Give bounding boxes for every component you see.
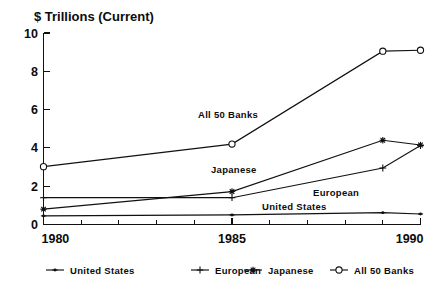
series-annotation: Japanese (211, 164, 257, 175)
star-marker (42, 208, 44, 210)
data-point (380, 137, 386, 143)
x-tick-label: 1980 (42, 232, 70, 246)
data-point (417, 47, 423, 53)
open-diamond-marker (380, 48, 386, 54)
open-diamond-marker (40, 164, 46, 170)
star-marker (419, 144, 421, 146)
open-diamond-marker (229, 141, 235, 147)
x-tick-label: 1990 (396, 232, 424, 246)
legend-item-all-50-banks[interactable]: All 50 Banks (330, 265, 414, 276)
dash-dot-marker (231, 214, 233, 216)
line-chart: $ Trillions (Current) 0246810 1980198519… (0, 0, 444, 296)
legend-item-united-states[interactable]: United States (46, 265, 135, 276)
data-point (40, 206, 46, 212)
series-annotation: United States (262, 201, 327, 212)
y-tick-label: 0 (31, 218, 38, 232)
annotation-layer: All 50 BanksJapaneseEuropeanUnited State… (198, 109, 359, 212)
data-point (229, 188, 235, 194)
series-annotation: European (313, 187, 359, 198)
data-point (41, 215, 46, 217)
x-tick-label: 1985 (218, 232, 246, 246)
series-layer (40, 47, 424, 217)
dash-dot-marker (52, 269, 57, 271)
series-annotation: All 50 Banks (198, 109, 258, 120)
data-point (229, 214, 234, 216)
plus-marker (197, 267, 204, 274)
data-point (229, 194, 236, 201)
y-tick-label: 2 (31, 180, 38, 194)
legend-label: United States (70, 265, 135, 276)
data-point (380, 48, 386, 54)
data-point (229, 141, 235, 147)
legend-label: All 50 Banks (354, 265, 414, 276)
dash-dot-marker (54, 269, 56, 271)
dash-dot-marker (420, 213, 422, 215)
data-point (417, 142, 423, 148)
data-point (40, 164, 46, 170)
star-marker (250, 267, 256, 273)
chart-title: $ Trillions (Current) (34, 9, 154, 24)
star-marker (252, 269, 254, 271)
open-diamond-marker (336, 267, 342, 273)
y-tick-label: 8 (31, 65, 38, 79)
star-marker (231, 190, 233, 192)
chart-legend: United StatesEuropeanJapaneseAll 50 Bank… (46, 265, 414, 276)
chart-container: $ Trillions (Current) 0246810 1980198519… (0, 0, 444, 296)
x-axis: 198019851990 (42, 218, 424, 247)
dash-dot-marker (43, 215, 45, 217)
star-marker (382, 139, 384, 141)
data-point (379, 165, 386, 172)
y-tick-label: 6 (31, 103, 38, 117)
dash-dot-marker (382, 212, 384, 214)
y-tick-label: 4 (31, 141, 38, 155)
series-united-states (41, 212, 423, 217)
y-tick-label: 10 (24, 27, 38, 41)
y-axis: 0246810 (24, 27, 49, 233)
open-diamond-marker (336, 267, 342, 273)
open-diamond-marker (417, 47, 423, 53)
data-point (40, 194, 47, 201)
legend-label: Japanese (268, 265, 314, 276)
